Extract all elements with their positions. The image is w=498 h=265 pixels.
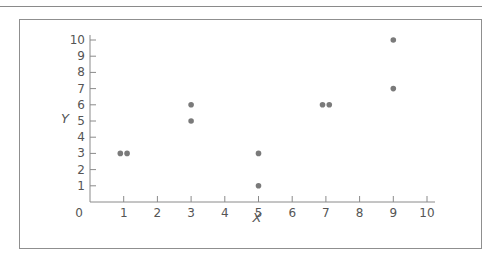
y-tick-label: 3 <box>77 146 85 160</box>
y-tick-label: 6 <box>77 98 85 112</box>
x-tick-label: 2 <box>154 206 162 220</box>
data-point <box>256 183 262 189</box>
x-tick-label: 1 <box>120 206 128 220</box>
ticks <box>90 40 427 202</box>
x-tick-label: 6 <box>288 206 296 220</box>
data-point <box>391 37 397 43</box>
y-tick-label: 7 <box>77 82 85 96</box>
y-tick-label: 8 <box>77 65 85 79</box>
scatter-chart: 01234567891012345678910 X Y <box>0 0 498 265</box>
data-point <box>320 102 326 108</box>
axes <box>90 35 435 202</box>
x-axis-title: X <box>252 210 263 225</box>
data-point <box>326 102 332 108</box>
y-tick-label: 2 <box>77 163 85 177</box>
tick-labels: 01234567891012345678910 <box>70 33 435 220</box>
x-tick-label: 4 <box>221 206 229 220</box>
x-tick-label: 0 <box>75 206 83 220</box>
x-tick-label: 7 <box>322 206 330 220</box>
data-point <box>118 151 124 157</box>
data-point <box>188 118 194 124</box>
x-tick-label: 3 <box>187 206 195 220</box>
y-axis-title: Y <box>61 111 70 126</box>
y-tick-label: 9 <box>77 49 85 63</box>
data-point <box>124 151 130 157</box>
data-point <box>391 86 397 92</box>
y-tick-label: 5 <box>77 114 85 128</box>
data-point <box>256 151 262 157</box>
x-tick-label: 9 <box>389 206 397 220</box>
y-tick-label: 1 <box>77 179 85 193</box>
y-tick-label: 4 <box>77 130 85 144</box>
x-tick-label: 10 <box>419 206 434 220</box>
x-tick-label: 8 <box>356 206 364 220</box>
data-point <box>188 102 194 108</box>
y-tick-label: 10 <box>70 33 85 47</box>
data-points <box>118 37 397 188</box>
